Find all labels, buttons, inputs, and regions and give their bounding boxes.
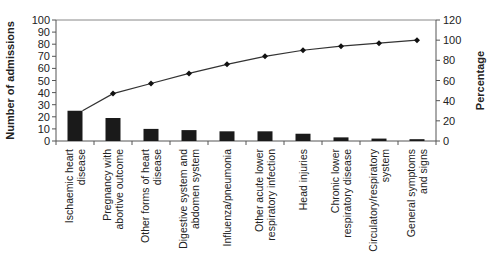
bar xyxy=(296,134,311,141)
svg-text:Chronic lower: Chronic lower xyxy=(329,149,341,214)
svg-text:respiratory infection: respiratory infection xyxy=(265,149,277,241)
svg-text:General symptoms: General symptoms xyxy=(405,149,417,237)
y-tick-label: 30 xyxy=(38,99,50,111)
cumulative-line-series xyxy=(83,37,421,111)
y-axis-title: Number of admissions xyxy=(4,21,16,140)
svg-text:and signs: and signs xyxy=(417,149,429,194)
y-tick-label: 10 xyxy=(38,123,50,135)
line-marker-diamond xyxy=(376,40,382,46)
svg-text:Influenza/pneumonia: Influenza/pneumonia xyxy=(221,149,233,247)
svg-text:Digestive system and: Digestive system and xyxy=(177,149,189,249)
bar xyxy=(68,111,83,141)
line-marker-diamond xyxy=(300,47,306,53)
svg-text:abortive outcome: abortive outcome xyxy=(113,149,125,230)
bar xyxy=(144,129,159,141)
y-tick-label: 90 xyxy=(38,26,50,38)
category-label: Circulatory/respiratorysystem xyxy=(367,148,391,251)
category-label: Pregnancy withabortive outcome xyxy=(101,149,125,230)
category-label: Ischaemic heartdisease xyxy=(63,149,87,223)
y2-tick-label: 120 xyxy=(443,14,461,26)
bar xyxy=(334,137,349,141)
svg-text:abdomen system: abdomen system xyxy=(189,149,201,229)
y-tick-label: 80 xyxy=(38,38,50,50)
category-label: Other forms of heartdisease xyxy=(139,149,163,243)
category-label: Chronic lowerrespiratory disease xyxy=(329,149,353,238)
line-marker-diamond xyxy=(262,53,268,59)
svg-text:respiratory disease: respiratory disease xyxy=(341,149,353,238)
bar xyxy=(220,131,235,141)
line-marker-diamond xyxy=(414,37,420,43)
bar xyxy=(410,139,425,141)
bar xyxy=(106,118,121,141)
bar xyxy=(182,130,197,141)
svg-text:system: system xyxy=(379,149,391,183)
svg-text:disease: disease xyxy=(75,149,87,185)
category-label: Other acute lowerrespiratory infection xyxy=(253,148,277,240)
line-marker-diamond xyxy=(110,91,116,97)
pareto-chart: 0102030405060708090100020406080100120Num… xyxy=(0,0,492,271)
category-labels: Ischaemic heartdiseasePregnancy withabor… xyxy=(63,148,429,251)
y-tick-label: 50 xyxy=(38,75,50,87)
svg-text:Other acute lower: Other acute lower xyxy=(253,148,265,231)
y2-tick-label: 0 xyxy=(443,135,449,147)
category-label: Head injuries xyxy=(297,149,309,210)
bar xyxy=(372,139,387,141)
y-tick-label: 70 xyxy=(38,50,50,62)
y2-axis-title: Percentage xyxy=(474,51,486,110)
line-marker-diamond xyxy=(224,61,230,67)
line-marker-diamond xyxy=(186,70,192,76)
category-label: Digestive system andabdomen system xyxy=(177,149,201,249)
y-tick-label: 40 xyxy=(38,87,50,99)
svg-text:Pregnancy with: Pregnancy with xyxy=(101,149,113,221)
y2-tick-label: 60 xyxy=(443,75,455,87)
category-label: General symptomsand signs xyxy=(405,149,429,237)
y2-tick-label: 40 xyxy=(443,95,455,107)
bar xyxy=(258,131,273,141)
svg-text:Circulatory/respiratory: Circulatory/respiratory xyxy=(367,148,379,251)
svg-text:Head injuries: Head injuries xyxy=(297,149,309,210)
y-tick-label: 100 xyxy=(32,14,50,26)
y2-tick-label: 100 xyxy=(443,34,461,46)
y-tick-label: 60 xyxy=(38,62,50,74)
cumulative-line xyxy=(83,40,418,111)
y2-tick-label: 20 xyxy=(443,115,455,127)
category-label: Influenza/pneumonia xyxy=(221,149,233,247)
line-marker-diamond xyxy=(338,43,344,49)
y-tick-label: 0 xyxy=(44,135,50,147)
line-marker-diamond xyxy=(148,81,154,87)
y2-tick-label: 80 xyxy=(443,54,455,66)
y-tick-label: 20 xyxy=(38,111,50,123)
svg-text:Other forms of heart: Other forms of heart xyxy=(139,149,151,243)
svg-text:disease: disease xyxy=(151,149,163,185)
svg-text:Ischaemic heart: Ischaemic heart xyxy=(63,149,75,223)
bar-series xyxy=(68,111,425,141)
